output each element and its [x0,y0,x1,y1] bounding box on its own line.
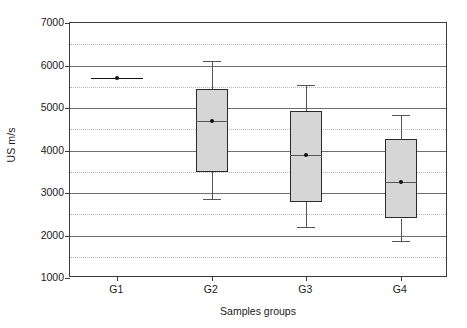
y-axis-tick-label: 7000 [41,16,64,28]
boxplot-lower-cap [392,241,410,242]
gridline-major [70,66,446,67]
y-axis-tick-label: 3000 [41,186,64,198]
x-axis-tick-mark [117,276,118,281]
x-axis-tick-label-g3: G3 [298,283,312,295]
y-axis-tick-mark [65,108,70,109]
y-axis-title: US m/s [0,0,22,290]
y-axis-tick-label: 4000 [41,144,64,156]
y-axis-tick-mark [65,66,70,67]
gridline-minor [70,87,446,88]
plot-area [69,22,447,277]
boxplot-upper-cap [203,61,221,62]
x-axis-tick-label-g1: G1 [109,283,123,295]
gridline-minor [70,129,446,130]
y-axis-tick-mark [65,23,70,24]
y-axis-tick-label: 6000 [41,59,64,71]
x-axis-title: Samples groups [69,305,447,317]
boxplot-lower-whisker [306,202,307,227]
boxplot-mean-marker [115,76,119,80]
x-axis-tick-mark [401,276,402,281]
boxplot-upper-whisker [306,85,307,111]
boxplot-mean-marker [210,119,214,123]
boxplot-upper-whisker [401,115,402,138]
boxplot-lower-whisker [401,219,402,242]
boxplot-upper-cap [297,85,315,86]
x-axis-tick-mark [306,276,307,281]
boxplot-lower-whisker [212,172,213,200]
y-axis-tick-labels: 1000200030004000500060007000 [20,0,64,328]
x-axis-tick-label-g2: G2 [204,283,218,295]
boxplot-lower-cap [203,199,221,200]
y-axis-tick-label: 2000 [41,229,64,241]
gridline-major [70,108,446,109]
boxplot-mean-marker [304,153,308,157]
boxplot-mean-marker [399,180,403,184]
y-axis-tick-label: 5000 [41,101,64,113]
x-axis-tick-label-g4: G4 [393,283,407,295]
boxplot-upper-cap [392,115,410,116]
y-axis-tick-mark [65,151,70,152]
y-axis-tick-mark [65,193,70,194]
gridline-major [70,236,446,237]
y-axis-tick-mark [65,278,70,279]
boxplot-upper-whisker [212,61,213,89]
gridline-minor [70,257,446,258]
y-axis-title-text: US m/s [5,127,17,162]
boxplot-figure: US m/s 1000200030004000500060007000 G1G2… [0,0,467,328]
boxplot-lower-cap [297,227,315,228]
gridline-minor [70,44,446,45]
y-axis-tick-label: 1000 [41,271,64,283]
x-axis-tick-mark [212,276,213,281]
boxplot-box[interactable] [196,89,228,172]
y-axis-tick-mark [65,236,70,237]
